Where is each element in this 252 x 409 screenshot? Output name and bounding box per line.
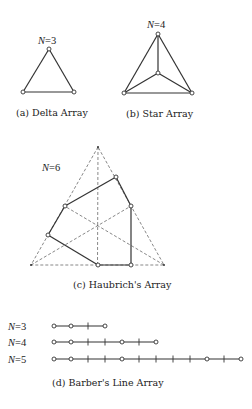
delta-array-caption: (a) Delta Array bbox=[16, 107, 88, 118]
baseline-edge bbox=[48, 206, 65, 235]
line-array-row: N=5 bbox=[7, 354, 243, 365]
antenna-element bbox=[69, 357, 73, 361]
haubrich-array-panel: N=6 (c) Haubrich's Array bbox=[30, 146, 172, 290]
antenna-element bbox=[154, 340, 158, 344]
antenna-element bbox=[96, 263, 100, 267]
antenna-element bbox=[156, 71, 160, 75]
star-array-caption: (b) Star Array bbox=[126, 108, 194, 119]
antenna-element bbox=[122, 91, 126, 95]
triangle-vertex-dot bbox=[30, 264, 32, 266]
haubrich-n-label: N=6 bbox=[41, 162, 60, 173]
line-array-n-label: N=3 bbox=[7, 321, 26, 332]
baseline-edge bbox=[158, 34, 192, 93]
antenna-element bbox=[114, 175, 118, 179]
antenna-element bbox=[52, 324, 56, 328]
star-array-panel: N=4 (b) Star Array bbox=[122, 19, 194, 119]
antenna-element bbox=[52, 340, 56, 344]
line-array-n-label: N=5 bbox=[7, 354, 26, 365]
antenna-element bbox=[72, 90, 76, 94]
triangle-vertex-dot bbox=[163, 264, 165, 266]
antenna-element bbox=[21, 90, 25, 94]
barber-array-caption: (d) Barber's Line Array bbox=[52, 377, 164, 388]
antenna-element bbox=[69, 340, 73, 344]
antenna-element bbox=[205, 357, 209, 361]
line-array-row: N=4 bbox=[7, 337, 158, 348]
antenna-element bbox=[103, 324, 107, 328]
line-array-n-label: N=4 bbox=[7, 337, 27, 348]
antenna-element bbox=[129, 204, 133, 208]
antenna-element bbox=[69, 324, 73, 328]
barber-line-array-panel: N=3N=4N=5 (d) Barber's Line Array bbox=[7, 321, 243, 389]
antenna-element bbox=[120, 357, 124, 361]
antenna-element bbox=[46, 233, 50, 237]
line-array-row: N=3 bbox=[7, 321, 107, 332]
antenna-element bbox=[129, 263, 133, 267]
antenna-element bbox=[52, 357, 56, 361]
baseline-edge bbox=[116, 177, 131, 206]
baseline-edge bbox=[49, 49, 74, 92]
median-line bbox=[98, 147, 99, 265]
haubrich-array-caption: (c) Haubrich's Array bbox=[73, 279, 172, 290]
antenna-element bbox=[47, 47, 51, 51]
antenna-element bbox=[63, 204, 67, 208]
delta-array-panel: N=3 (a) Delta Array bbox=[16, 35, 88, 118]
antenna-element bbox=[190, 91, 194, 95]
antenna-element bbox=[120, 340, 124, 344]
baseline-edge bbox=[124, 34, 158, 93]
antenna-element bbox=[156, 32, 160, 36]
baseline-edge bbox=[23, 49, 49, 92]
median-line bbox=[65, 206, 165, 265]
antenna-element bbox=[239, 357, 243, 361]
star-n-label: N=4 bbox=[146, 19, 166, 30]
baseline-edge bbox=[48, 235, 98, 265]
antenna-array-figure: N=3 (a) Delta Array N=4 (b) Star Array N… bbox=[0, 0, 252, 409]
triangle-vertex-dot bbox=[97, 146, 99, 148]
delta-n-label: N=3 bbox=[37, 35, 56, 46]
